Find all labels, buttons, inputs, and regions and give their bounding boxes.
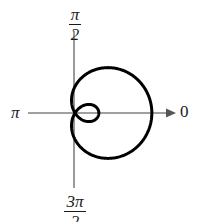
angle-label-zero: 0 (180, 103, 189, 120)
fraction-half-pi: π 2 (69, 6, 82, 43)
polar-plot-figure: π 2 3π 2 π 0 (0, 0, 204, 222)
fraction-denominator: 2 (64, 212, 85, 222)
fraction-numerator: π (69, 6, 82, 25)
polar-plot-canvas (0, 0, 204, 222)
fraction-denominator: 2 (69, 25, 82, 43)
horizontal-axis (28, 108, 176, 117)
fraction-numerator: 3π (64, 193, 85, 212)
angle-label-half-pi: π 2 (62, 6, 88, 43)
angle-label-pi: π (11, 104, 20, 121)
angle-label-three-half-pi: 3π 2 (54, 193, 96, 222)
horizontal-axis-arrowhead-icon (166, 108, 176, 117)
fraction-three-half-pi: 3π 2 (64, 193, 85, 222)
